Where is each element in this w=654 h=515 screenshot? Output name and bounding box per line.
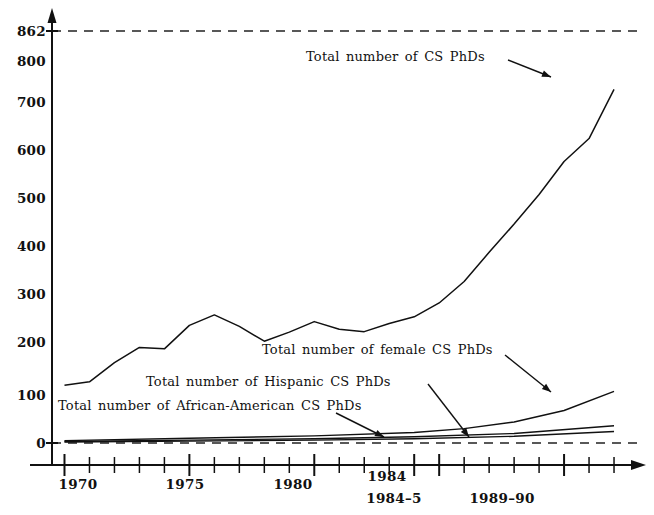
x-tick-label-secondary: 1989–90 bbox=[462, 492, 542, 506]
y-tick-label: 100 bbox=[2, 389, 46, 403]
annotation-female-cs-phds: Total number of female CS PhDs bbox=[262, 343, 493, 356]
arrow-hispanic-cs-phds bbox=[428, 384, 469, 437]
y-axis-arrowhead bbox=[48, 8, 57, 23]
x-tick-label: 1975 bbox=[155, 478, 215, 492]
y-tick-label: 800 bbox=[2, 55, 46, 69]
annotation-african-american-cs-phds: Total number of African-American CS PhDs bbox=[58, 399, 362, 412]
x-tick-label: 1984 bbox=[357, 470, 417, 484]
y-tick-label: 862 bbox=[2, 25, 46, 39]
series-line-0 bbox=[64, 89, 614, 385]
chart-figure: 862 800 700 600 500 400 300 200 100 0 19… bbox=[0, 0, 654, 515]
annotation-hispanic-cs-phds: Total number of Hispanic CS PhDs bbox=[146, 375, 391, 388]
y-tick-label: 200 bbox=[2, 336, 46, 350]
y-tick-label: 300 bbox=[2, 288, 46, 302]
y-tick-label: 400 bbox=[2, 240, 46, 254]
y-tick-label: 600 bbox=[2, 144, 46, 158]
x-tick-label-secondary: 1984–5 bbox=[354, 492, 434, 506]
y-tick-label: 0 bbox=[2, 437, 46, 451]
annotation-total-cs-phds: Total number of CS PhDs bbox=[306, 50, 485, 63]
arrow-total-cs-phds-head bbox=[541, 71, 551, 77]
x-tick-label: 1980 bbox=[263, 478, 323, 492]
x-axis-arrowhead bbox=[631, 460, 646, 470]
y-tick-label: 500 bbox=[2, 192, 46, 206]
y-tick-label: 700 bbox=[2, 96, 46, 110]
x-tick-label: 1970 bbox=[48, 478, 108, 492]
chart-canvas bbox=[0, 0, 654, 515]
